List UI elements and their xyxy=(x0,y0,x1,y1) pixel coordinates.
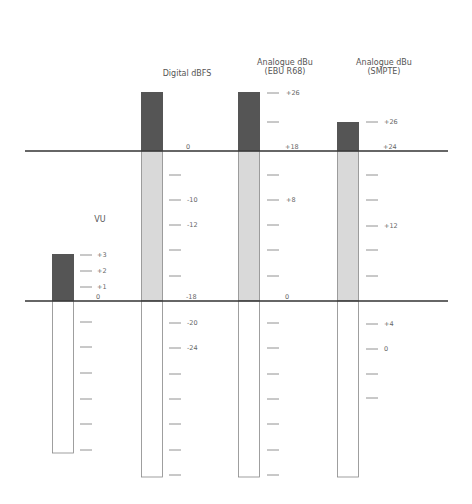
smpte-tick-label: +12 xyxy=(384,222,398,230)
ebu-tick-label: 0 xyxy=(285,293,289,301)
dbfs-tick-label: 0 xyxy=(186,143,190,151)
ebu-tick-label: +8 xyxy=(286,196,296,204)
dbfs-tick-label: -12 xyxy=(187,221,198,229)
smpte-lower-segment xyxy=(338,301,359,477)
dbfs-tick-label: -10 xyxy=(187,196,198,204)
ebu-tick-label: +18 xyxy=(285,143,299,151)
title-ebu-line1: Analogue dBu xyxy=(257,58,313,67)
ebu-headroom-segment xyxy=(238,92,260,151)
dbfs-operating-segment xyxy=(142,151,163,301)
ebu-operating-segment xyxy=(239,151,260,301)
dbfs-tick-label: -20 xyxy=(187,319,198,327)
dbfs-headroom-segment xyxy=(141,92,163,151)
dbfs-tick-label: -24 xyxy=(187,344,198,352)
vu-tick-label: +2 xyxy=(97,267,107,275)
title-smpte-line2: (SMPTE) xyxy=(368,67,401,76)
dbfs-tick-label: -18 xyxy=(186,293,197,301)
vu-tick-label: +3 xyxy=(97,251,107,259)
smpte-headroom-segment xyxy=(337,122,359,151)
smpte-operating-segment xyxy=(338,151,359,301)
smpte-tick-label: +24 xyxy=(383,143,397,151)
vu-tick-label: 0 xyxy=(96,293,100,301)
meter-scale-diagram: Digital dBFS Analogue dBu (EBU R68) Anal… xyxy=(0,0,472,504)
smpte-tick-label: +4 xyxy=(384,320,394,328)
title-dbfs: Digital dBFS xyxy=(163,69,212,78)
vu-lower-segment xyxy=(53,301,74,453)
title-ebu-line2: (EBU R68) xyxy=(265,67,306,76)
ebu-tick-label: +26 xyxy=(286,89,300,97)
ebu-lower-segment xyxy=(239,301,260,477)
title-vu: VU xyxy=(94,215,105,224)
smpte-tick-label: +26 xyxy=(384,118,398,126)
dbfs-lower-segment xyxy=(142,301,163,477)
title-smpte-line1: Analogue dBu xyxy=(356,58,412,67)
vu-headroom-segment xyxy=(52,254,74,301)
vu-tick-label: +1 xyxy=(97,283,107,291)
smpte-tick-label: 0 xyxy=(384,345,388,353)
